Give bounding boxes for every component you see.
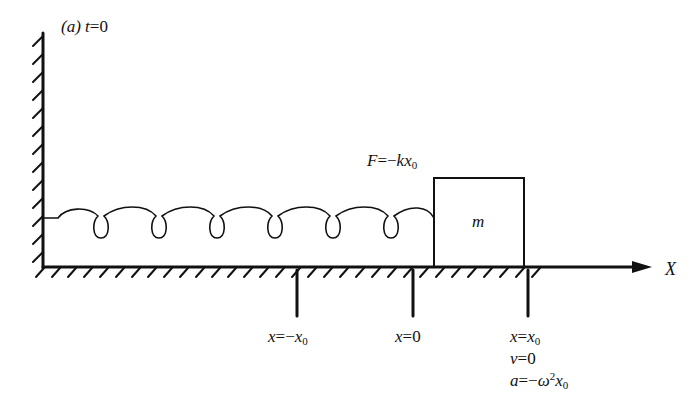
marker-x: x	[527, 327, 535, 346]
accel-x: x	[555, 371, 563, 390]
marker-eq: =0	[403, 327, 421, 346]
axis-arrowhead-icon	[632, 261, 652, 273]
marker-label-pos-x0: x=x0	[510, 328, 540, 347]
spring-mass-diagram: (a) t=0 F=−kx0 m X x=−x0 x=0 x=x0 v=0 a=…	[0, 0, 697, 414]
mass-label: m	[472, 213, 484, 230]
force-k: k	[397, 151, 405, 170]
force-eq: =−	[377, 151, 396, 170]
floor-hatching	[36, 268, 540, 277]
marker-sub: 0	[535, 335, 541, 347]
marker-label-zero: x=0	[395, 328, 421, 345]
axis-label: X	[665, 260, 676, 278]
force-var: F	[367, 151, 377, 170]
marker-var: x	[268, 327, 276, 346]
marker-sub: 0	[302, 335, 308, 347]
force-sub: 0	[412, 159, 418, 171]
accel-omega: ω	[538, 371, 550, 390]
velocity-label: v=0	[510, 350, 536, 367]
acceleration-label: a=−ω2x0	[510, 371, 568, 391]
marker-var: x	[510, 327, 518, 346]
marker-eq: =−	[276, 327, 295, 346]
panel-title: (a) t=0	[61, 18, 108, 35]
marker-var: x	[395, 327, 403, 346]
diagram-graphics	[0, 0, 697, 414]
marker-label-neg-x0: x=−x0	[268, 328, 308, 347]
velocity-var: v	[510, 349, 518, 368]
velocity-eq: =0	[518, 349, 536, 368]
force-label: F=−kx0	[367, 152, 417, 171]
marker-eq: =	[518, 327, 528, 346]
accel-eq: =−	[519, 371, 538, 390]
time-eq: =0	[90, 17, 108, 36]
accel-sub: 0	[563, 379, 569, 391]
spring-coil	[43, 207, 434, 238]
force-x: x	[404, 151, 412, 170]
accel-var: a	[510, 371, 519, 390]
panel-label: (a)	[61, 17, 81, 36]
